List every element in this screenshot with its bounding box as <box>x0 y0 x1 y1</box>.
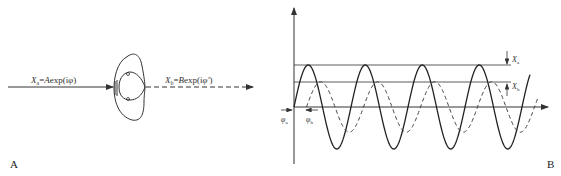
xa-amplitude-label: Xa <box>511 55 520 65</box>
outgoing-wave-label: Xb=Bexp(iφ') <box>164 75 212 86</box>
panel-b: Xa Xb φa φb <box>281 8 548 164</box>
phase-b-label: φb <box>306 115 313 125</box>
figure-canvas: Xa=Aexp(iφ) Xb=Bexp(iφ') Xa Xb φa φb <box>0 0 561 176</box>
inner-sphere <box>119 72 145 100</box>
panel-a: Xa=Aexp(iφ) Xb=Bexp(iφ') <box>8 54 253 120</box>
panel-a-letter: A <box>10 158 18 170</box>
panel-b-letter: B <box>547 158 554 170</box>
phase-a-label: φa <box>281 115 288 125</box>
xb-amplitude-label: Xb <box>511 82 520 92</box>
incoming-wave-label: Xa=Aexp(iφ) <box>30 75 76 86</box>
marker-dot-top <box>127 73 130 76</box>
